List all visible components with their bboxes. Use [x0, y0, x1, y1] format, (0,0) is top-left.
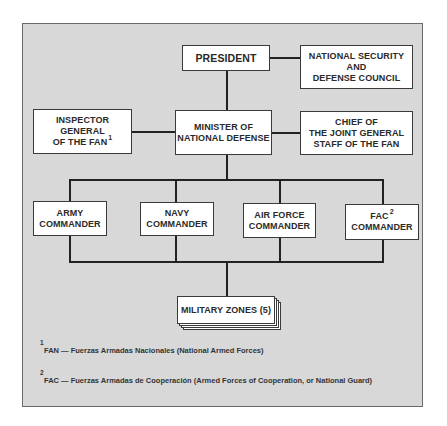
- chief-line-1: CHIEF OF: [309, 117, 404, 128]
- minister-line-1: MINISTER OF: [177, 122, 269, 133]
- inspector-line-2: GENERAL: [53, 126, 113, 137]
- fac-commander-box: FAC2 COMMANDER: [345, 204, 419, 240]
- inspector-line-3: OF THE FAN: [53, 137, 108, 147]
- army-commander-box: ARMY COMMANDER: [33, 201, 107, 236]
- navy-commander-box: NAVY COMMANDER: [140, 202, 214, 236]
- navy-line-2: COMMANDER: [146, 219, 207, 230]
- military-zones-label: MILITARY ZONES (5): [181, 305, 271, 316]
- president-label: PRESIDENT: [196, 53, 257, 64]
- inspector-line-1: INSPECTOR: [53, 115, 113, 126]
- connector-minister-down: [226, 155, 228, 181]
- footnote-ref-2: 2: [390, 208, 394, 215]
- footnote-2-number: 2: [40, 369, 44, 376]
- connector-president-minister: [226, 71, 228, 110]
- connector-drop-navy: [175, 179, 177, 202]
- footnote-1-number: 1: [40, 339, 44, 346]
- connector-inspector-minister: [132, 131, 175, 133]
- connector-president-nsdc: [270, 57, 300, 59]
- inspector-general-box: INSPECTOR GENERAL OF THE FAN1: [33, 109, 132, 154]
- connector-up-army: [69, 236, 71, 263]
- connector-minister-chief: [272, 132, 300, 134]
- nsdc-line-3: DEFENSE COUNCIL: [309, 73, 404, 84]
- footnote-1: 1 FAN — Fuerzas Armadas Nacionales (Nati…: [44, 346, 264, 355]
- airforce-commander-box: AIR FORCE COMMANDER: [243, 203, 316, 238]
- footnote-2-text: FAC — Fuerzas Armadas de Cooperación (Ar…: [44, 376, 372, 385]
- fac-line-1: FAC: [370, 211, 388, 221]
- connector-drop-fac: [382, 179, 384, 204]
- military-zones-box: MILITARY ZONES (5): [177, 296, 275, 324]
- chief-of-staff-box: CHIEF OF THE JOINT GENERAL STAFF OF THE …: [300, 111, 413, 155]
- footnote-1-text: FAN — Fuerzas Armadas Nacionales (Nation…: [44, 346, 264, 355]
- footnote-2: 2 FAC — Fuerzas Armadas de Cooperación (…: [44, 376, 372, 385]
- minister-line-2: NATIONAL DEFENSE: [177, 133, 269, 144]
- connector-top-bus: [69, 179, 384, 181]
- nsdc-box: NATIONAL SECURITY AND DEFENSE COUNCIL: [300, 45, 413, 89]
- army-line-2: COMMANDER: [39, 219, 100, 230]
- airforce-line-1: AIR FORCE: [249, 210, 310, 221]
- fac-line-2: COMMANDER: [351, 222, 412, 233]
- nsdc-line-2: AND: [309, 62, 404, 73]
- connector-drop-army: [69, 179, 71, 201]
- connector-up-airforce: [279, 238, 281, 263]
- nsdc-line-1: NATIONAL SECURITY: [309, 51, 404, 62]
- airforce-line-2: COMMANDER: [249, 221, 310, 232]
- minister-box: MINISTER OF NATIONAL DEFENSE: [175, 110, 272, 155]
- army-line-1: ARMY: [39, 208, 100, 219]
- connector-zones: [226, 262, 228, 296]
- connector-drop-airforce: [279, 179, 281, 203]
- chief-line-2: THE JOINT GENERAL: [309, 128, 404, 139]
- chief-line-3: STAFF OF THE FAN: [309, 139, 404, 150]
- president-box: PRESIDENT: [182, 45, 270, 71]
- connector-up-fac: [382, 240, 384, 263]
- connector-up-navy: [175, 236, 177, 263]
- navy-line-1: NAVY: [146, 208, 207, 219]
- footnote-ref-1: 1: [108, 134, 112, 141]
